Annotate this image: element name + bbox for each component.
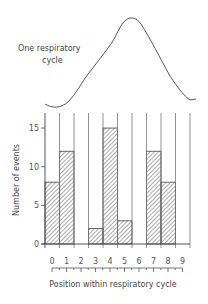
x-tick-label: 4 <box>107 257 112 266</box>
bar-4 <box>103 128 118 244</box>
x-tick-label: 8 <box>165 257 170 266</box>
y-tick-label: 0 <box>34 240 39 249</box>
x-axis-label: Position within respiratory cycle <box>49 280 177 289</box>
bar-0 <box>45 182 60 244</box>
x-tick-label: 5 <box>122 257 127 266</box>
y-tick-label: 15 <box>29 124 39 133</box>
x-tick-label: 3 <box>93 257 98 266</box>
y-axis-label: Number of events <box>12 144 21 216</box>
y-axis: 051015 <box>29 113 45 249</box>
bar-5 <box>118 221 133 244</box>
x-tick-label: 7 <box>151 257 156 266</box>
bar-8 <box>161 182 176 244</box>
histogram-chart: 051015 0123456789 Number of events Posit… <box>0 0 208 304</box>
y-tick-label: 5 <box>34 201 39 210</box>
bars-group <box>45 128 176 244</box>
bar-3 <box>89 229 104 244</box>
x-tick-label: 2 <box>78 257 83 266</box>
x-tick-label: 6 <box>136 257 141 266</box>
bar-7 <box>147 151 162 244</box>
position-scale: 0123456789 <box>49 257 185 272</box>
x-tick-label: 0 <box>49 257 54 266</box>
respiratory-cycle-curve <box>45 18 196 107</box>
bar-1 <box>60 151 75 244</box>
y-tick-label: 10 <box>29 163 39 172</box>
x-tick-label: 9 <box>180 257 185 266</box>
x-tick-label: 1 <box>64 257 69 266</box>
